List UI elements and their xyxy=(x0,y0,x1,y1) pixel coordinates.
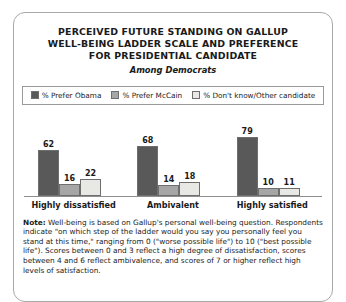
bar-value: 14 xyxy=(163,175,174,184)
bar-groups: 62 16 22 68 14 xyxy=(24,105,322,196)
bar-dontknow-highly-satisfied xyxy=(279,188,300,196)
legend-swatch-icon-obama xyxy=(31,91,39,99)
bar-wrap: 10 xyxy=(258,105,279,196)
bar-mccain-ambivalent xyxy=(158,185,179,195)
legend-item-dontknow: % Don't know/Other candidate xyxy=(192,91,315,100)
bar-value: 62 xyxy=(43,140,54,149)
bar-obama-ambivalent xyxy=(137,146,158,196)
legend-item-mccain: % Prefer McCain xyxy=(111,91,182,100)
legend-swatch-icon-dontknow xyxy=(192,91,200,99)
bar-wrap: 62 xyxy=(38,105,59,196)
page-title-line-3: FOR PRESIDENTIAL CANDIDATE xyxy=(24,50,322,62)
chart-plot-area: 62 16 22 68 14 xyxy=(24,105,322,197)
title-block: PERCEIVED FUTURE STANDING ON GALLUP WELL… xyxy=(14,13,332,77)
x-axis-label-highly-dissatisfied: Highly dissatisfied xyxy=(24,200,123,210)
bar-mccain-highly-dissatisfied xyxy=(59,184,80,196)
legend-label-mccain: % Prefer McCain xyxy=(122,91,182,100)
bar-value: 11 xyxy=(284,178,295,187)
page-title-line-2: WELL-BEING LADDER SCALE AND PREFERENCE xyxy=(24,38,322,50)
bar-wrap: 22 xyxy=(80,105,101,196)
chart-card: PERCEIVED FUTURE STANDING ON GALLUP WELL… xyxy=(13,12,333,302)
bar-wrap: 11 xyxy=(279,105,300,196)
chart-legend: % Prefer Obama % Prefer McCain % Don't k… xyxy=(22,86,324,105)
bar-wrap: 16 xyxy=(59,105,80,196)
bar-mccain-highly-satisfied xyxy=(258,188,279,195)
bar-dontknow-highly-dissatisfied xyxy=(80,179,101,195)
bar-wrap: 68 xyxy=(137,105,158,196)
bar-wrap: 79 xyxy=(237,105,258,196)
bar-wrap: 18 xyxy=(179,105,200,196)
bar-obama-highly-dissatisfied xyxy=(38,150,59,196)
chart-subtitle: Among Democrats xyxy=(24,64,322,77)
legend-item-obama: % Prefer Obama xyxy=(31,91,102,100)
bar-value: 68 xyxy=(142,136,153,145)
chart-note: Note: Well-being is based on Gallup's pe… xyxy=(23,218,323,276)
note-text: Well-being is based on Gallup's personal… xyxy=(23,218,323,275)
bar-dontknow-ambivalent xyxy=(179,182,200,195)
bar-group: 62 16 22 xyxy=(24,105,123,196)
bar-value: 10 xyxy=(263,178,274,187)
note-label: Note: xyxy=(23,218,46,227)
bar-value: 16 xyxy=(64,174,75,183)
legend-swatch-icon-mccain xyxy=(111,91,119,99)
legend-label-dontknow: % Don't know/Other candidate xyxy=(203,91,315,100)
bar-group: 79 10 11 xyxy=(223,105,322,196)
bar-value: 22 xyxy=(85,169,96,178)
page-title-line-1: PERCEIVED FUTURE STANDING ON GALLUP xyxy=(24,26,322,38)
bar-wrap: 14 xyxy=(158,105,179,196)
bar-group: 68 14 18 xyxy=(123,105,222,196)
x-axis-label-highly-satisfied: Highly satisfied xyxy=(223,200,322,210)
bar-value: 18 xyxy=(184,172,195,181)
x-axis-line xyxy=(24,196,322,197)
bar-value: 79 xyxy=(242,127,253,136)
x-axis-labels: Highly dissatisfied Ambivalent Highly sa… xyxy=(24,200,322,210)
x-axis-label-ambivalent: Ambivalent xyxy=(123,200,222,210)
legend-label-obama: % Prefer Obama xyxy=(42,91,102,100)
bar-obama-highly-satisfied xyxy=(237,137,258,195)
